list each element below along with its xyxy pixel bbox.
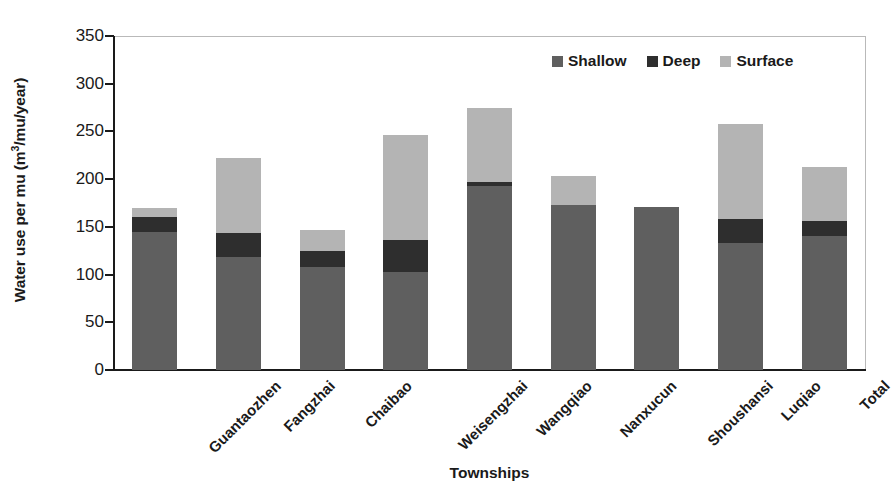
bar-segment-deep[interactable]: [802, 221, 847, 236]
bar-segment-surface[interactable]: [467, 108, 512, 182]
bar-segment-shallow[interactable]: [634, 207, 679, 370]
bar-segment-deep[interactable]: [216, 233, 261, 258]
bar-segment-shallow[interactable]: [216, 257, 261, 370]
legend-entry[interactable]: Shallow: [552, 52, 627, 70]
bar-segment-surface[interactable]: [802, 167, 847, 221]
bar-group[interactable]: [300, 36, 345, 370]
y-axis-tick-label: 300: [76, 74, 104, 94]
legend-swatch-icon: [647, 56, 658, 67]
x-axis-tick-label: Fangzhai: [280, 377, 338, 435]
legend-label: Surface: [736, 52, 793, 70]
bar-segment-shallow[interactable]: [383, 272, 428, 370]
y-axis-title-suffix: /mu/year): [11, 78, 28, 146]
y-axis-tick-label: 0: [95, 360, 104, 380]
x-axis-title: Townships: [113, 464, 866, 482]
bar-stack[interactable]: [467, 108, 512, 370]
legend-swatch-icon: [720, 56, 731, 67]
bar-stack[interactable]: [634, 207, 679, 370]
chart-legend: ShallowDeepSurface: [552, 52, 793, 70]
x-axis-tick-label: Total: [856, 377, 893, 414]
y-axis-title-superscript: 3: [9, 146, 21, 152]
y-axis-title-prefix: Water use per mu (m: [11, 151, 28, 302]
bar-segment-shallow[interactable]: [551, 205, 596, 370]
bar-stack[interactable]: [216, 158, 261, 370]
bar-segment-surface[interactable]: [300, 230, 345, 251]
bar-segment-shallow[interactable]: [718, 243, 763, 370]
bar-stack[interactable]: [551, 176, 596, 370]
y-axis-tick-label: 150: [76, 217, 104, 237]
y-axis-tick-label: 350: [76, 26, 104, 46]
legend-label: Deep: [663, 52, 701, 70]
bar-group[interactable]: [718, 36, 763, 370]
bar-segment-deep[interactable]: [132, 217, 177, 231]
legend-swatch-icon: [552, 56, 563, 67]
bar-segment-deep[interactable]: [718, 219, 763, 243]
bar-segment-shallow[interactable]: [300, 267, 345, 370]
bar-segment-deep[interactable]: [300, 251, 345, 267]
bar-stack[interactable]: [383, 135, 428, 370]
x-axis-tick-label: Luqiao: [777, 377, 824, 424]
bar-stack[interactable]: [802, 167, 847, 370]
bar-segment-surface[interactable]: [718, 124, 763, 219]
y-axis-tick-labels: 050100150200250300350: [42, 36, 104, 370]
x-axis-tick-label: Weisengzhai: [454, 377, 530, 453]
x-axis-tick-labels: GuantaozhenFangzhaiChaibaoWeisengzhaiWan…: [113, 371, 866, 461]
bar-group[interactable]: [551, 36, 596, 370]
legend-label: Shallow: [568, 52, 627, 70]
chart-figure: Water use per mu (m3/mu/year) 0501001502…: [0, 0, 896, 503]
bar-segment-surface[interactable]: [216, 158, 261, 232]
bar-segment-surface[interactable]: [383, 135, 428, 240]
bar-segment-surface[interactable]: [551, 176, 596, 205]
x-axis-tick-label: Chaibao: [361, 377, 415, 431]
y-axis-tick-label: 100: [76, 265, 104, 285]
bars-layer: [113, 36, 866, 370]
bar-segment-shallow[interactable]: [132, 232, 177, 370]
bar-segment-shallow[interactable]: [802, 236, 847, 370]
y-axis-tick-label: 200: [76, 169, 104, 189]
bar-segment-surface[interactable]: [132, 208, 177, 218]
legend-entry[interactable]: Deep: [647, 52, 701, 70]
bar-group[interactable]: [132, 36, 177, 370]
bar-stack[interactable]: [718, 124, 763, 370]
bar-group[interactable]: [383, 36, 428, 370]
x-axis-tick-label: Shoushansi: [704, 377, 776, 449]
legend-entry[interactable]: Surface: [720, 52, 793, 70]
y-axis-title: Water use per mu (m3/mu/year): [0, 0, 40, 380]
bar-group[interactable]: [634, 36, 679, 370]
bar-group[interactable]: [467, 36, 512, 370]
x-axis-tick-label: Wangqiao: [532, 377, 594, 439]
bar-stack[interactable]: [300, 230, 345, 370]
bar-stack[interactable]: [132, 208, 177, 370]
bar-group[interactable]: [216, 36, 261, 370]
x-axis-tick-label: Guantaozhen: [205, 377, 284, 456]
bar-group[interactable]: [802, 36, 847, 370]
bar-segment-deep[interactable]: [383, 240, 428, 271]
x-axis-tick-label: Nanxucun: [616, 377, 679, 440]
y-axis-tick-label: 250: [76, 121, 104, 141]
y-axis-tick-label: 50: [85, 312, 104, 332]
bar-segment-shallow[interactable]: [467, 186, 512, 370]
